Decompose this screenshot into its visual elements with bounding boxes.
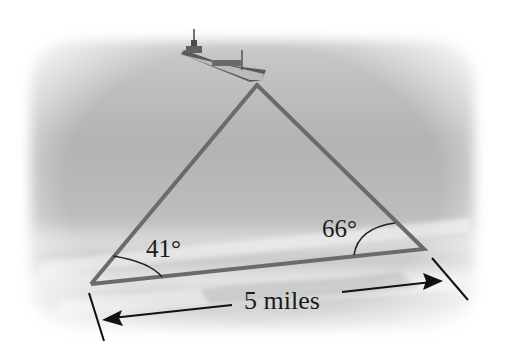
diagram-canvas: 41° 66° 5 miles bbox=[0, 0, 505, 364]
left-angle-label: 41° bbox=[146, 235, 181, 262]
baseline-length-label: 5 miles bbox=[244, 286, 320, 315]
right-angle-label: 66° bbox=[322, 215, 357, 242]
triangulation-figure: 41° 66° 5 miles bbox=[0, 0, 505, 364]
